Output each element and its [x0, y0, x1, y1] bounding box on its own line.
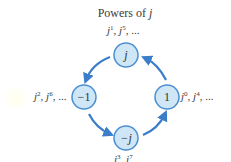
- node-value: −1: [78, 90, 91, 104]
- node-one: 1: [155, 85, 179, 109]
- arrow-minus-one-to-minus-j: [89, 114, 110, 134]
- node-value: 1: [164, 90, 170, 104]
- node-minus-j: −j: [114, 126, 138, 150]
- diagram-graphics: j −1 1 −j: [0, 0, 231, 162]
- node-value: −j: [120, 131, 132, 145]
- arrow-one-to-j: [145, 58, 166, 80]
- arrow-minus-j-to-one: [143, 114, 165, 135]
- powers-of-j-diagram: Powers of j j1, j5, ... j2, j6, ... j0, …: [0, 0, 231, 162]
- node-j: j: [114, 43, 138, 67]
- arrow-j-to-minus-one: [86, 57, 110, 80]
- node-minus-one: −1: [72, 85, 96, 109]
